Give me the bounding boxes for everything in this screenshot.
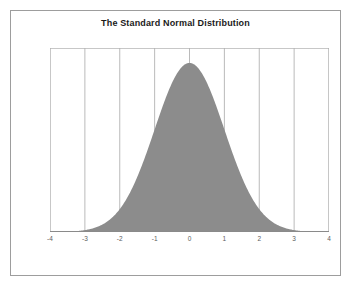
- chart-title: The Standard Normal Distribution: [0, 18, 351, 28]
- x-tick-label: 3: [284, 234, 304, 244]
- x-tick-label: 0: [180, 234, 200, 244]
- normal-distribution-plot: [50, 48, 329, 232]
- x-axis-tick-labels: -4-3-2-101234: [50, 234, 329, 246]
- plot-area: [50, 48, 329, 232]
- x-tick-label: -1: [145, 234, 165, 244]
- x-tick-label: -2: [110, 234, 130, 244]
- normal-curve-area: [50, 63, 329, 232]
- chart-figure: The Standard Normal Distribution -4-3-2-…: [0, 0, 351, 295]
- x-tick-label: -4: [40, 234, 60, 244]
- x-tick-label: -3: [75, 234, 95, 244]
- x-tick-label: 4: [319, 234, 339, 244]
- x-tick-label: 2: [249, 234, 269, 244]
- x-tick-label: 1: [214, 234, 234, 244]
